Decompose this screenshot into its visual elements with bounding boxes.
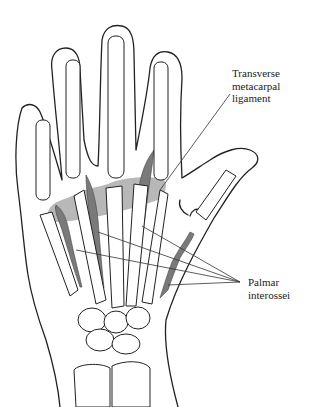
- hand-anatomy-diagram: Transverse metacarpal ligament Palmar in…: [0, 0, 309, 407]
- label-line: ligament: [232, 92, 280, 105]
- label-line: Transverse: [232, 67, 280, 80]
- hand-illustration: [0, 0, 309, 407]
- label-palmar-interossei: Palmar interossei: [248, 276, 290, 301]
- label-line: Palmar: [248, 276, 290, 289]
- label-line: interossei: [248, 289, 290, 302]
- label-line: metacarpal: [232, 80, 280, 93]
- label-transverse-metacarpal-ligament: Transverse metacarpal ligament: [232, 67, 280, 105]
